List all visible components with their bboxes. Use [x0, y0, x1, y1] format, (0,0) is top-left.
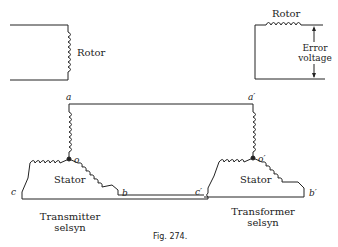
terminal-o-label: o [74, 155, 79, 165]
terminal-c-prime-label: c′ [195, 187, 202, 197]
error-voltage-line1: Error [298, 43, 332, 53]
error-voltage-line2: voltage [298, 53, 332, 63]
terminal-b-prime-label: b′ [309, 188, 317, 198]
terminal-a-label: a [66, 92, 71, 102]
left-rotor-coil [68, 32, 71, 72]
error-voltage-label: Error voltage [298, 43, 332, 63]
right-rotor-label: Rotor [272, 9, 300, 19]
figure-caption: Fig. 274. [153, 232, 187, 241]
transmitter-caption-line2: selsyn [35, 222, 105, 233]
right-rotor-coil [266, 23, 301, 26]
transmitter-coil-c [22, 159, 200, 199]
transmitter-caption: Transmitter selsyn [35, 211, 105, 233]
transmitter-caption-line1: Transmitter [35, 211, 105, 222]
terminal-o-prime-label: o′ [258, 154, 265, 164]
transformer-caption-line1: Transformer [228, 206, 298, 217]
transmitter-stator [22, 104, 204, 199]
terminal-b-label: b [122, 188, 128, 198]
transformer-coil-a [253, 112, 256, 158]
terminal-a-prime-label: a′ [248, 92, 255, 102]
transmitter-coil-a [69, 112, 72, 159]
transformer-caption: Transformer selsyn [228, 206, 298, 228]
transformer-stator-label: Stator [240, 175, 272, 185]
transmitter-neutral-node [67, 157, 71, 161]
left-rotor-circuit [10, 25, 71, 80]
transformer-caption-line2: selsyn [228, 217, 298, 228]
transformer-neutral-node [251, 156, 255, 160]
transmitter-coil-b [69, 159, 204, 195]
left-rotor-label: Rotor [77, 48, 105, 58]
transmitter-stator-label: Stator [54, 175, 86, 185]
terminal-c-label: c [11, 187, 16, 197]
